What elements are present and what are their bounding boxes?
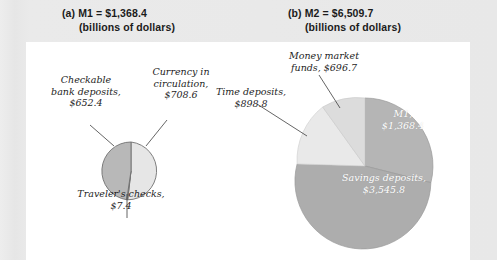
label-checkable-value: $652.4 — [36, 97, 136, 109]
panel-a-title: (a) M1 = $1,368.4 (billions of dollars) — [62, 7, 175, 34]
label-m1-inside-slice: M1, $1,368.4 — [374, 108, 432, 131]
label-money-market-funds: Money market funds, $696.7 — [272, 50, 376, 73]
label-checkable-line1: Checkable — [36, 74, 136, 86]
panel-a-title-line2: (billions of dollars) — [79, 21, 175, 35]
leader-line-currency — [146, 120, 167, 146]
leader-line-checkable — [90, 125, 114, 146]
label-savings-value: $3,545.8 — [326, 184, 442, 196]
label-checkable-line2: bank deposits, — [36, 86, 136, 98]
pie-chart-m2 — [231, 42, 470, 260]
label-mmf-line2: funds, $696.7 — [272, 62, 376, 74]
label-travelers-checks: Traveler's checks, $7.4 — [62, 188, 180, 211]
label-savings-deposits-inside-slice: Savings deposits, $3,545.8 — [326, 172, 442, 195]
label-currency-line1: Currency in — [138, 66, 224, 78]
panel-b-title-line1: (b) M2 = $6,509.7 — [288, 7, 373, 19]
figure-money-supply: (a) M1 = $1,368.4 (billions of dollars) … — [0, 0, 497, 260]
panel-a-title-line1: (a) M1 = $1,368.4 — [62, 7, 147, 19]
figure-panel: Checkable bank deposits, $652.4 Currency… — [26, 42, 470, 260]
label-travelers-line1: Traveler's checks, — [62, 188, 180, 200]
label-m1-line1: M1, — [374, 108, 432, 120]
label-checkable-bank-deposits: Checkable bank deposits, $652.4 — [36, 74, 136, 109]
label-m1-value: $1,368.4 — [374, 120, 432, 132]
label-time-line1: Time deposits, — [210, 86, 292, 98]
label-mmf-line1: Money market — [272, 50, 376, 62]
panel-b-title: (b) M2 = $6,509.7 (billions of dollars) — [288, 7, 401, 34]
label-travelers-value: $7.4 — [62, 200, 180, 212]
figure-titles: (a) M1 = $1,368.4 (billions of dollars) … — [0, 0, 497, 42]
label-time-deposits: Time deposits, $898.8 — [210, 86, 292, 109]
pie-m2-svg — [231, 42, 470, 260]
leader-line-money-market — [319, 75, 340, 108]
label-time-value: $898.8 — [210, 98, 292, 110]
label-savings-line1: Savings deposits, — [326, 172, 442, 184]
panel-b-title-line2: (billions of dollars) — [305, 21, 401, 35]
